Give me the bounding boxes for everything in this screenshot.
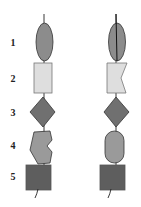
right-notched-rectangle xyxy=(107,63,127,93)
shape-diagram xyxy=(0,0,141,207)
right-rounded-pill xyxy=(105,131,124,163)
right-column xyxy=(100,14,129,198)
right-diamond xyxy=(104,97,129,127)
left-rectangle xyxy=(34,63,52,93)
left-diamond xyxy=(30,97,55,127)
right-square xyxy=(100,165,125,190)
left-column xyxy=(26,14,55,198)
left-ellipse xyxy=(36,23,53,61)
left-notched-polygon xyxy=(30,131,52,164)
left-square xyxy=(26,165,51,190)
